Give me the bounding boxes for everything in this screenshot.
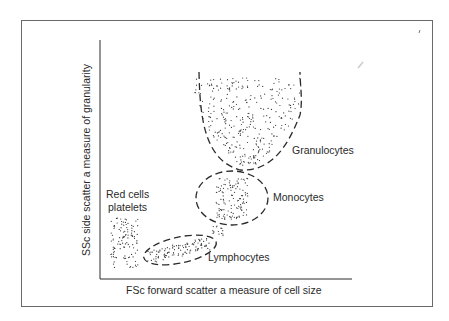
granulocytes-gate: [199, 72, 301, 170]
lymphocytes-label: Lymphocytes: [208, 251, 269, 263]
platelets-label: platelets: [108, 201, 147, 213]
monocytes-gate: [196, 171, 268, 225]
x-axis-label: FSc forward scatter a measure of cell si…: [126, 284, 322, 296]
monocytes-label: Monocytes: [273, 191, 324, 203]
scatter-plot: [0, 0, 449, 321]
y-axis-label: SSc side scatter a measure of granularit…: [80, 64, 92, 256]
granulocytes-label: Granulocytes: [292, 144, 354, 156]
red-cells-label: Red cells: [106, 188, 149, 200]
lymphocytes-gate: [141, 230, 219, 271]
